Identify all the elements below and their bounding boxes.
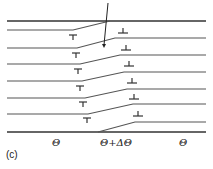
lattice-plane (7, 104, 206, 114)
edge-dislocation-t-icon (74, 69, 82, 74)
lattice-plane (7, 72, 206, 81)
edge-dislocation-perp-icon (127, 78, 137, 83)
lattice-plane (7, 21, 110, 30)
dislocation-boundary-diagram: Θ Θ+ΔΘ Θ (c) (0, 0, 213, 169)
edge-dislocation-perp-icon (118, 28, 128, 33)
lattice-plane (7, 89, 206, 98)
left-region-label: Θ (52, 137, 60, 148)
edge-dislocation-t-icon (83, 118, 91, 123)
edge-dislocation-t-icon (76, 86, 84, 91)
lattice-planes (7, 21, 206, 132)
lattice-plane (7, 55, 206, 64)
edge-dislocation-perp-icon (133, 111, 143, 116)
edge-dislocation-perp-icon (124, 61, 134, 66)
lattice-plane (98, 122, 206, 132)
edge-dislocation-perp-icon (129, 94, 139, 99)
panel-label: (c) (6, 149, 18, 160)
edge-dislocation-t-icon (79, 102, 87, 107)
middle-region-label: Θ+ΔΘ (100, 137, 132, 148)
right-region-label: Θ (179, 137, 187, 148)
edge-dislocation-perp-icon (121, 45, 131, 50)
edge-dislocation-t-icon (72, 53, 80, 58)
lattice-plane (7, 38, 206, 48)
edge-dislocation-t-icon (69, 35, 77, 40)
